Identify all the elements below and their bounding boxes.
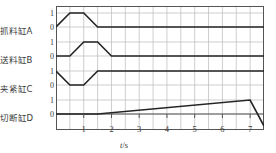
x-axis-title-unit: /s bbox=[122, 140, 128, 150]
trace-cylinder-a bbox=[56, 13, 264, 27]
y-tick-b-1: 1 bbox=[44, 39, 54, 47]
y-tick-c-1: 1 bbox=[44, 68, 54, 76]
y-tick-d-0: 0 bbox=[44, 111, 54, 119]
x-tick-marks bbox=[84, 114, 250, 118]
x-tick-6: 6 bbox=[215, 125, 229, 134]
trace-cylinder-d bbox=[56, 100, 264, 126]
x-tick-7: 7 bbox=[243, 125, 257, 134]
x-axis-title: t/s bbox=[120, 141, 128, 150]
y-tick-a-1: 1 bbox=[44, 10, 54, 18]
trace-cylinder-c bbox=[56, 71, 264, 85]
x-tick-1: 1 bbox=[77, 125, 91, 134]
y-tick-c-0: 0 bbox=[44, 82, 54, 90]
y-tick-a-0: 0 bbox=[44, 24, 54, 32]
plot-svg bbox=[56, 6, 264, 130]
displacement-time-diagram: 抓料缸A 送料缸B 夹紧缸C 切断缸D 1 0 1 0 1 0 1 0 bbox=[0, 0, 276, 153]
x-tick-5: 5 bbox=[188, 125, 202, 134]
vertical-gridlines bbox=[70, 6, 250, 130]
plot-frame bbox=[57, 7, 264, 130]
horizontal-gridlines bbox=[56, 13, 264, 114]
plot-area bbox=[56, 6, 264, 130]
y-tick-b-0: 0 bbox=[44, 53, 54, 61]
x-tick-3: 3 bbox=[132, 125, 146, 134]
x-tick-4: 4 bbox=[160, 125, 174, 134]
x-tick-2: 2 bbox=[105, 125, 119, 134]
y-tick-d-1: 1 bbox=[44, 97, 54, 105]
trace-cylinder-b bbox=[56, 42, 264, 56]
